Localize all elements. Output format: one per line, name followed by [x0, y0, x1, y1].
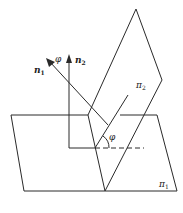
label-pi1: π1	[158, 179, 169, 190]
label-pi2: π2	[135, 80, 146, 91]
normal-n1-line	[50, 62, 108, 125]
dihedral-angle-diagram: n1 φ n2 π2 φ π1	[0, 0, 183, 213]
label-n1: n1	[34, 65, 45, 76]
label-phi-top: φ	[55, 54, 62, 64]
label-n2: n2	[75, 55, 86, 66]
plane-pi1	[11, 115, 177, 191]
n2-arrowhead-icon	[66, 54, 72, 63]
label-phi-angle: φ	[109, 132, 116, 142]
